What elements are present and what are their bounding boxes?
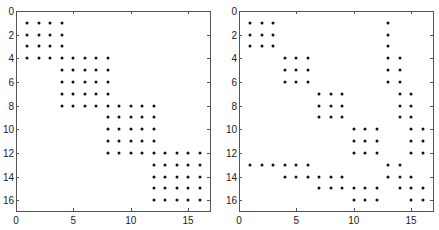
x-tick-label: 15 <box>178 215 198 226</box>
nonzero-marker <box>295 175 298 178</box>
nonzero-marker <box>83 69 86 72</box>
nonzero-marker <box>198 199 201 202</box>
nonzero-marker <box>272 163 275 166</box>
nonzero-marker <box>152 199 155 202</box>
nonzero-marker <box>318 116 321 119</box>
nonzero-marker <box>49 57 52 60</box>
x-tick-label: 5 <box>286 215 306 226</box>
nonzero-marker <box>387 45 390 48</box>
nonzero-marker <box>421 151 424 154</box>
nonzero-marker <box>106 104 109 107</box>
y-tick-mark <box>207 153 210 154</box>
nonzero-marker <box>410 151 413 154</box>
y-tick-label: 6 <box>0 76 14 87</box>
x-tick-mark <box>411 208 412 211</box>
y-tick-label: 4 <box>223 53 237 64</box>
nonzero-marker <box>95 92 98 95</box>
x-tick-mark <box>354 11 355 14</box>
nonzero-marker <box>72 57 75 60</box>
nonzero-marker <box>318 104 321 107</box>
nonzero-marker <box>318 175 321 178</box>
x-tick-mark <box>131 11 132 14</box>
y-tick-label: 10 <box>223 124 237 135</box>
y-tick-mark <box>16 82 19 83</box>
nonzero-marker <box>72 92 75 95</box>
nonzero-marker <box>26 57 29 60</box>
nonzero-marker <box>398 57 401 60</box>
y-tick-mark <box>16 200 19 201</box>
nonzero-marker <box>37 45 40 48</box>
nonzero-marker <box>152 151 155 154</box>
nonzero-marker <box>387 33 390 36</box>
nonzero-marker <box>272 45 275 48</box>
nonzero-marker <box>26 21 29 24</box>
nonzero-marker <box>106 92 109 95</box>
nonzero-marker <box>60 33 63 36</box>
x-tick-mark <box>188 11 189 14</box>
nonzero-marker <box>106 80 109 83</box>
nonzero-marker <box>95 80 98 83</box>
nonzero-marker <box>106 128 109 131</box>
nonzero-marker <box>295 69 298 72</box>
nonzero-marker <box>152 104 155 107</box>
nonzero-marker <box>249 163 252 166</box>
nonzero-marker <box>187 187 190 190</box>
y-tick-mark <box>239 129 242 130</box>
nonzero-marker <box>295 57 298 60</box>
nonzero-marker <box>260 21 263 24</box>
nonzero-marker <box>387 175 390 178</box>
nonzero-marker <box>260 33 263 36</box>
y-tick-mark <box>207 200 210 201</box>
nonzero-marker <box>341 92 344 95</box>
y-tick-mark <box>207 82 210 83</box>
y-tick-label: 16 <box>0 195 14 206</box>
nonzero-marker <box>118 140 121 143</box>
nonzero-marker <box>95 57 98 60</box>
nonzero-marker <box>318 92 321 95</box>
nonzero-marker <box>387 80 390 83</box>
nonzero-marker <box>152 163 155 166</box>
nonzero-marker <box>398 116 401 119</box>
nonzero-marker <box>187 175 190 178</box>
nonzero-marker <box>141 151 144 154</box>
nonzero-marker <box>37 21 40 24</box>
nonzero-marker <box>72 104 75 107</box>
x-tick-mark <box>131 208 132 211</box>
nonzero-marker <box>118 151 121 154</box>
nonzero-marker <box>398 92 401 95</box>
nonzero-marker <box>164 151 167 154</box>
nonzero-marker <box>387 57 390 60</box>
nonzero-marker <box>187 151 190 154</box>
y-tick-label: 2 <box>0 29 14 40</box>
x-tick-mark <box>188 208 189 211</box>
y-tick-mark <box>207 11 210 12</box>
nonzero-marker <box>249 45 252 48</box>
nonzero-marker <box>329 175 332 178</box>
nonzero-marker <box>306 57 309 60</box>
nonzero-marker <box>352 187 355 190</box>
nonzero-marker <box>421 199 424 202</box>
nonzero-marker <box>364 128 367 131</box>
x-tick-mark <box>73 208 74 211</box>
nonzero-marker <box>60 104 63 107</box>
nonzero-marker <box>152 140 155 143</box>
nonzero-marker <box>295 80 298 83</box>
nonzero-marker <box>410 92 413 95</box>
y-tick-label: 6 <box>223 76 237 87</box>
nonzero-marker <box>72 80 75 83</box>
plot-axes-1 <box>16 11 211 212</box>
nonzero-marker <box>364 187 367 190</box>
nonzero-marker <box>318 187 321 190</box>
nonzero-marker <box>175 163 178 166</box>
y-tick-mark <box>16 177 19 178</box>
y-tick-label: 2 <box>223 29 237 40</box>
y-tick-label: 0 <box>0 6 14 17</box>
y-tick-mark <box>239 177 242 178</box>
y-tick-mark <box>430 106 433 107</box>
nonzero-marker <box>175 187 178 190</box>
nonzero-marker <box>26 33 29 36</box>
nonzero-marker <box>141 128 144 131</box>
nonzero-marker <box>152 116 155 119</box>
y-tick-mark <box>16 129 19 130</box>
y-tick-mark <box>207 35 210 36</box>
